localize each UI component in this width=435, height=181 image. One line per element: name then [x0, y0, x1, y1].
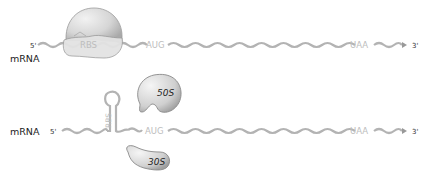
bottom-start-codon: AUG — [145, 126, 164, 136]
top-rbs-label: RBS — [80, 40, 97, 50]
bottom-rbs-label: RBS — [104, 113, 113, 128]
bottom-mrna-strand-coding — [168, 129, 355, 133]
top-arrowhead-icon — [402, 42, 407, 48]
bottom-three-prime-label: 3' — [412, 128, 418, 136]
bottom-arrowhead-icon — [402, 128, 407, 134]
bottom-stop-codon: UAA — [350, 126, 368, 136]
top-mrna-strand-3 — [374, 43, 402, 47]
bottom-five-prime-label: 5' — [50, 128, 56, 136]
top-five-prime-label: 5' — [30, 42, 36, 50]
top-mrna-label: mRNA — [10, 53, 40, 64]
top-mrna-strand-coding — [168, 43, 355, 47]
bottom-mrna-strand-5 — [62, 129, 107, 133]
top-stop-codon: UAA — [350, 40, 368, 50]
bottom-mrna-strand-3 — [374, 129, 402, 133]
large-subunit-label: 50S — [157, 88, 174, 98]
bound-ribosome — [63, 8, 122, 58]
bottom-panel: mRNA 5' RBS AUG UAA 3' 50S 30S — [10, 74, 418, 170]
translation-diagram: 5' mRNA RBS AUG UAA 3' mRNA 5' RBS AUG U… — [0, 0, 435, 181]
bottom-mrna-label: mRNA — [10, 126, 40, 137]
small-subunit-label: 30S — [148, 157, 165, 167]
top-three-prime-label: 3' — [412, 42, 418, 50]
top-panel: 5' mRNA RBS AUG UAA 3' — [10, 8, 418, 64]
top-start-codon: AUG — [146, 40, 165, 50]
bottom-mrna-strand-pre-aug — [128, 129, 142, 132]
